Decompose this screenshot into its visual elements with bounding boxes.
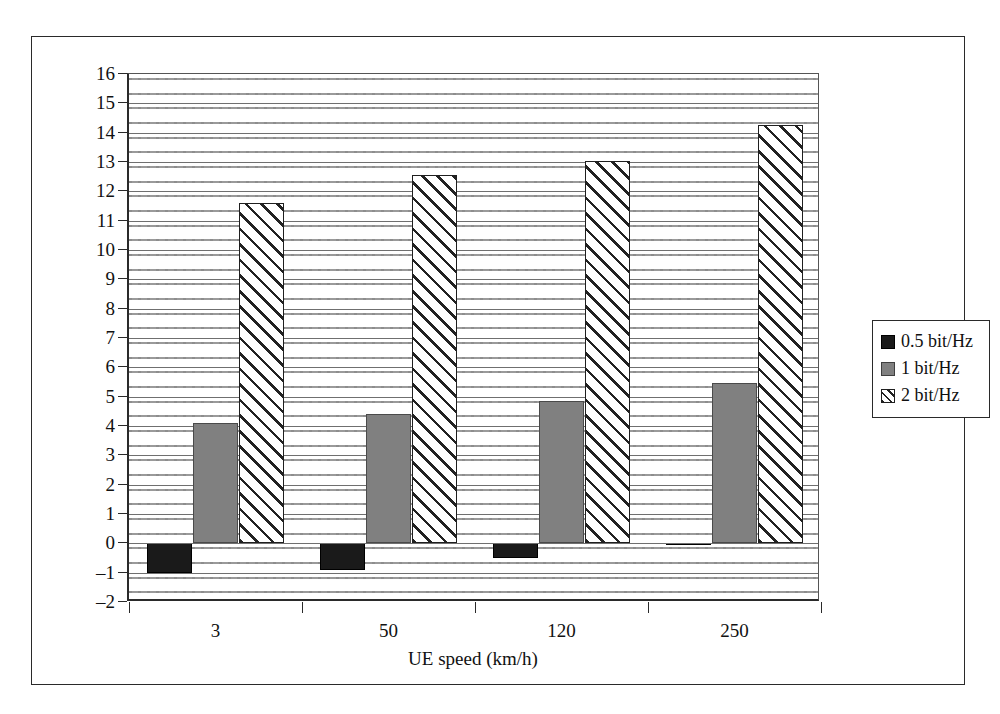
gridline [129,133,818,134]
y-tick-label: 7 [69,328,115,347]
y-tick-mark [118,425,127,426]
legend-item-label: 2 bit/Hz [901,385,960,406]
y-tick-mark [118,366,127,367]
gridline [129,221,818,222]
x-tick-label: 120 [502,620,622,642]
x-tick-label: 250 [675,620,795,642]
zero-gridline [129,543,818,544]
y-tick-mark [118,132,127,133]
bar-120-2-bit-hz [585,161,630,544]
gridline [129,191,818,192]
y-tick-label: 11 [69,210,115,229]
bar-120-1-bit-hz [539,401,584,543]
gridline [129,573,818,574]
y-tick-mark [118,572,127,573]
bar-50-1-bit-hz [366,414,411,543]
legend-item-label: 1 bit/Hz [901,358,960,379]
y-tick-mark [118,278,127,279]
gridline [129,543,818,544]
y-tick-mark [118,484,127,485]
y-tick-label: 4 [69,416,115,435]
y-tick-mark [118,73,127,74]
bar-3-1-bit-hz [193,423,238,543]
y-tick-mark [118,161,127,162]
x-tick-mark [475,602,476,613]
y-tick-label: 10 [69,240,115,259]
y-tick-label: 16 [69,64,115,83]
y-tick-label: 8 [69,298,115,317]
bar-50-0.5-bit-hz [320,543,365,569]
gridline [129,103,818,104]
y-tick-mark [118,190,127,191]
x-tick-label: 3 [156,620,276,642]
legend-item-1: 1 bit/Hz [881,355,982,382]
legend-item-label: 0.5 bit/Hz [901,331,973,352]
legend-item-0: 0.5 bit/Hz [881,328,982,355]
x-axis-title: UE speed (km/h) [127,648,819,670]
gridline [129,367,818,368]
bar-3-2-bit-hz [239,203,284,543]
x-tick-mark [821,602,822,613]
x-tick-mark [302,602,303,613]
hatched-square-swatch [881,389,895,403]
bar-250-0.5-bit-hz [666,543,711,545]
gridline [129,338,818,339]
gridline [129,309,818,310]
x-tick-mark [648,602,649,613]
chart-legend: 0.5 bit/Hz1 bit/Hz2 bit/Hz [872,320,990,418]
bar-50-2-bit-hz [412,175,457,543]
y-tick-mark [118,396,127,397]
gray-square-swatch [881,362,895,376]
y-tick-mark [118,102,127,103]
y-tick-mark [118,454,127,455]
gridline [129,162,818,163]
y-tick-label: 14 [69,122,115,141]
y-tick-label: 6 [69,357,115,376]
y-tick-mark [118,337,127,338]
black-square-swatch [881,335,895,349]
bar-250-1-bit-hz [712,383,757,543]
y-tick-mark [118,249,127,250]
y-tick-mark [118,308,127,309]
y-tick-label: 1 [69,504,115,523]
y-tick-mark [118,220,127,221]
gridline [129,279,818,280]
bar-3-0.5-bit-hz [147,543,192,572]
x-tick-mark [129,602,130,613]
x-tick-label: 50 [329,620,449,642]
y-tick-label: 0 [69,533,115,552]
y-tick-label: 13 [69,152,115,171]
y-tick-mark [118,601,127,602]
y-tick-mark [118,513,127,514]
figure-frame: Required SNR (dB) 350120250 –2–101234567… [31,36,965,685]
y-tick-label: –2 [69,592,115,611]
y-tick-label: 3 [69,445,115,464]
y-tick-label: –1 [69,562,115,581]
y-tick-label: 5 [69,386,115,405]
y-tick-label: 9 [69,269,115,288]
y-tick-label: 15 [69,93,115,112]
plot-area: 350120250 [127,73,819,601]
y-tick-label: 12 [69,181,115,200]
gridline [129,250,818,251]
legend-item-2: 2 bit/Hz [881,382,982,409]
y-tick-mark [118,542,127,543]
bar-250-2-bit-hz [758,125,803,543]
bar-120-0.5-bit-hz [493,543,538,558]
y-tick-label: 2 [69,474,115,493]
